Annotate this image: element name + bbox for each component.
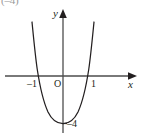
x-tick-label-positive-one: 1 [91, 79, 96, 89]
corner-text-fragment: (–4) [1, 0, 19, 6]
y-axis-arrowhead [59, 9, 67, 18]
origin-label: O [54, 79, 61, 89]
math-figure: (–4) y x O –1 1 –4 [0, 0, 141, 139]
y-axis-label: y [53, 8, 58, 19]
x-axis-label: x [128, 79, 133, 90]
vertex-value-label: –4 [67, 119, 77, 129]
x-tick-label-negative-one: –1 [27, 79, 37, 89]
